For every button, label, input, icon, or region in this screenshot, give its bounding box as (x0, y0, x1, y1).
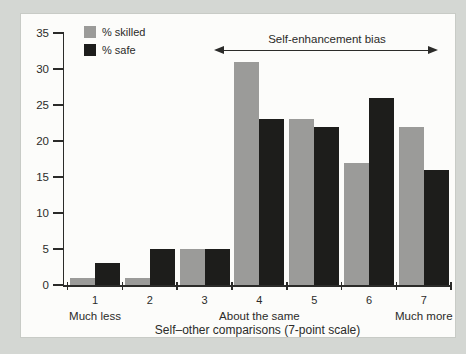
x-tick (122, 282, 124, 290)
figure-background: 051015202530351Much less234About the sam… (0, 0, 466, 354)
legend-label-skilled: % skilled (102, 25, 145, 39)
x-axis-title: Self–other comparisons (7-point scale) (64, 323, 451, 337)
x-category-label: 7 (394, 294, 454, 307)
annotation-label: Self-enhancement bias (214, 33, 440, 45)
bar-skilled-6 (344, 163, 369, 285)
x-tick (396, 282, 398, 290)
x-tick (176, 282, 178, 290)
legend-label-safe: % safe (102, 43, 136, 57)
bar-skilled-3 (180, 249, 205, 285)
arrow-left-head-icon (214, 46, 224, 54)
bar-safe-3 (205, 249, 230, 285)
x-category-label: 5 (284, 294, 344, 307)
y-axis-line (63, 33, 65, 287)
x-category-label: 6 (339, 294, 399, 307)
y-tick-label: 35 (21, 26, 49, 40)
y-tick-label: 30 (21, 62, 49, 76)
x-category-label: 1 (65, 294, 125, 307)
legend-swatch-skilled-icon (84, 26, 96, 38)
x-category-label: 3 (175, 294, 235, 307)
x-category-label: 2 (120, 294, 180, 307)
x-tick (67, 282, 69, 290)
x-category-sublabel: About the same (199, 310, 319, 323)
bar-skilled-5 (289, 119, 314, 285)
bar-safe-7 (424, 170, 449, 285)
bar-safe-1 (95, 263, 120, 285)
y-tick-label: 0 (21, 278, 49, 292)
x-category-label: 4 (229, 294, 289, 307)
bar-skilled-2 (125, 278, 150, 285)
y-tick-label: 5 (21, 242, 49, 256)
y-tick-label: 10 (21, 206, 49, 220)
bar-safe-5 (314, 127, 339, 285)
x-tick (341, 282, 343, 290)
y-tick-label: 25 (21, 98, 49, 112)
bar-skilled-4 (234, 62, 259, 285)
x-category-sublabel: Much more (364, 310, 466, 323)
arrow-right-head-icon (428, 46, 438, 54)
figure-panel: 051015202530351Much less234About the sam… (20, 13, 456, 338)
y-tick-label: 15 (21, 170, 49, 184)
x-tick (231, 282, 233, 290)
bar-safe-6 (369, 98, 394, 285)
x-tick (286, 282, 288, 290)
x-tick (450, 282, 452, 290)
bar-skilled-7 (399, 127, 424, 285)
legend-swatch-safe-icon (84, 44, 96, 56)
x-category-sublabel: Much less (35, 310, 155, 323)
bar-safe-4 (259, 119, 284, 285)
double-arrow-shaft (223, 50, 429, 52)
plot-area: 051015202530351Much less234About the sam… (21, 14, 455, 337)
bar-skilled-1 (70, 278, 95, 285)
bar-safe-2 (150, 249, 175, 285)
y-tick-label: 20 (21, 134, 49, 148)
